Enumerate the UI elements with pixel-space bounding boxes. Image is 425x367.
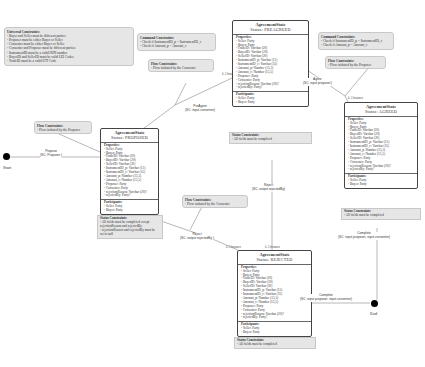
participants-section: Participants: - Seller: Party - Buyer: P… (345, 173, 417, 188)
participant: - Buyer: Party (104, 209, 155, 213)
status-constraints-agreed: Status Constraints: - All fields must be… (341, 208, 421, 220)
note-text: - Flow initiated by the Consenter (185, 202, 245, 206)
command-constraints-agree: Command Constraints: - Check if Instrume… (318, 32, 394, 50)
end-node[interactable] (371, 300, 378, 307)
multiplicity-label: 0..1 Instance (265, 246, 280, 249)
properties-section: Properties: - Seller: Party - Buyer: Par… (345, 117, 417, 174)
state-status: Status: REJECTED (238, 257, 311, 262)
transition-propose[interactable]: Propose (SC: Proposer ) (40, 150, 62, 158)
state-status: Status: AGREED (345, 109, 417, 114)
command-constraints-preagree: Command Constraints: - Check if Instrume… (137, 33, 216, 51)
property: - rejectedBy: Party? (236, 86, 305, 90)
properties-section: Properties: - Seller: Party - Buyer: Par… (233, 35, 308, 92)
start-label: Start (3, 165, 11, 170)
universal-constraints-note: Universal Constraints: - Buyer and Selle… (4, 27, 134, 66)
transition-signature: (SC: input proposer) (303, 82, 332, 86)
note-text: - Check if Amount_p = Amount_c (140, 44, 213, 48)
constraint: set to null (100, 233, 160, 237)
state-proposed[interactable]: AgreementState Status: PROPOSED Properti… (100, 128, 159, 215)
transition-complete-agreed[interactable]: Complete (SC: input proposer, input cons… (338, 232, 390, 240)
property: - rejectedBy: Party? (348, 168, 414, 172)
transition-agree[interactable]: Agree (SC: input proposer) (303, 78, 332, 86)
note-text: - Flow initiated by the Consenter (151, 66, 211, 70)
participant: - Buyer: Party (241, 331, 308, 335)
transition-signature: (SC: Proposer ) (40, 154, 62, 158)
participants-section: Participants: - Seller: Party - Buyer: P… (238, 321, 311, 336)
multiplicity-label: 0..1 Instance (226, 246, 241, 249)
transition-signature: (SC: input proposer, input consenter) (338, 236, 390, 240)
constraint: - All fields must be completed (344, 214, 418, 218)
start-node[interactable] (3, 153, 10, 160)
transition-preagree[interactable]: PreAgree (SC: input consenter) (185, 105, 215, 113)
end-label: End (370, 311, 377, 316)
status-constraints-preagreed: Status Constraints: - All fields must be… (229, 132, 312, 144)
properties-section: Properties: - Seller: Party - Buyer: Par… (101, 143, 158, 200)
transition-reject-from-proposed[interactable]: Reject (SC: output rejectedBy ) (180, 233, 214, 241)
transition-reject-from-preagreed[interactable]: Reject (SC: output rejectedBy) (252, 184, 285, 192)
constraint: - All fields must be completed (232, 138, 309, 142)
multiplicity-label: 0..1 Instance (348, 97, 363, 100)
flow-constraints-agree: Flow Constraints: - Flow initiated by th… (325, 56, 386, 69)
property: - rejectedBy: Party? (104, 194, 155, 198)
state-preagreed[interactable]: AgreementState Status: PREAGREED Propert… (232, 20, 309, 107)
note-text: - Flow initiated by the Proposer (37, 128, 89, 132)
flow-constraints-note-proposer: Flow Constraints: - Flow initiated by th… (34, 121, 92, 134)
flow-constraints-preagree: Flow Constraints: - Flow initiated by th… (148, 59, 214, 72)
participants-section: Participants: - Seller: Party - Buyer: P… (233, 91, 308, 106)
note-text: - Check if Amount_p = Amount_c (321, 43, 391, 47)
state-agreed[interactable]: AgreementState Status: AGREED Properties… (344, 102, 418, 189)
transition-complete-rejected[interactable]: Complete (SC: input proposer, input cons… (300, 294, 352, 302)
transition-signature: (SC: input proposer, input consenter) (300, 298, 352, 302)
participant: - Buyer: Party (348, 183, 414, 187)
transition-signature: (SC: output rejectedBy) (252, 188, 285, 192)
transition-signature: (SC: input consenter) (185, 109, 215, 113)
state-status: Status: PREAGREED (233, 27, 308, 32)
status-constraints-proposed: Status Constraints: - All fields must be… (97, 215, 163, 239)
participant: - Buyer: Party (236, 101, 305, 105)
property: - rejectedBy: Party? (241, 316, 308, 320)
flow-constraints-reject: Flow Constraints: - Flow initiated by th… (182, 195, 248, 208)
participants-section: Participants: - Seller: Party - Buyer: P… (101, 199, 158, 214)
state-status: Status: PROPOSED (101, 135, 158, 140)
status-constraints-rejected: Status Constraints: - All fields must be… (234, 337, 316, 349)
constraint: - All fields must be completed (237, 343, 313, 347)
constraint-item: - TradeID must be a valid UTI Code (7, 59, 131, 63)
note-text: - Flow initiated by the Proposer (328, 63, 383, 67)
transition-signature: (SC: output rejectedBy ) (180, 237, 214, 241)
